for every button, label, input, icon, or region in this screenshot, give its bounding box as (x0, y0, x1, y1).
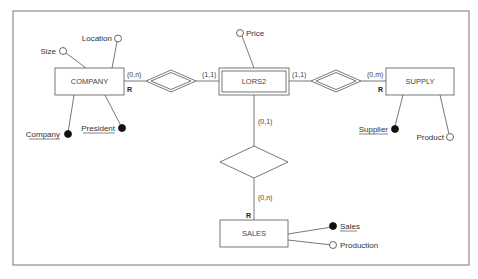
attribute-company: Company (26, 130, 60, 139)
key-attribute-icon-sales (330, 223, 337, 230)
entity-company: COMPANY (55, 68, 124, 95)
entity-sales-label: SALES (242, 229, 266, 238)
attribute-icon-product (447, 134, 454, 141)
role-marker-sales: R (246, 212, 251, 219)
attribute-icon-price (237, 30, 244, 37)
key-attribute-icon-company (65, 131, 72, 138)
entity-lors2: LORS2 (219, 68, 289, 95)
relationship-lors2-sales (220, 146, 288, 178)
role-marker-company: R (127, 86, 132, 93)
attribute-size: Size (40, 47, 56, 56)
relationship-company-lors2 (146, 70, 196, 92)
attribute-icon-production (330, 242, 337, 249)
entity-supply: SUPPLY (386, 68, 454, 95)
key-attribute-icon-supplier (392, 126, 399, 133)
attribute-production: Production (340, 241, 378, 250)
cardinality-lors2-left: (1,1) (202, 71, 216, 79)
entity-sales: SALES (220, 220, 288, 247)
attribute-president: President (81, 124, 116, 133)
er-diagram: COMPANY Size Location Company President … (0, 0, 478, 279)
entity-supply-label: SUPPLY (405, 77, 434, 86)
key-attribute-icon-president (119, 125, 126, 132)
cardinality-sales: (0,n) (258, 194, 272, 202)
cardinality-company: (0,n) (127, 71, 141, 79)
cardinality-lors2-down: (0,1) (258, 118, 272, 126)
attribute-icon-size (60, 48, 67, 55)
attribute-supplier: Supplier (359, 125, 389, 134)
attribute-icon-location (115, 35, 122, 42)
attribute-sales: Sales (340, 222, 360, 231)
entity-lors2-label: LORS2 (242, 77, 267, 86)
attribute-location: Location (82, 34, 112, 43)
entity-company-label: COMPANY (71, 77, 108, 86)
relationship-lors2-supply (311, 70, 361, 92)
cardinality-lors2-right: (1,1) (292, 71, 306, 79)
attribute-product: Product (416, 133, 444, 142)
attribute-price: Price (246, 29, 265, 38)
cardinality-supply: (0,m) (367, 71, 383, 79)
role-marker-supply: R (378, 86, 383, 93)
